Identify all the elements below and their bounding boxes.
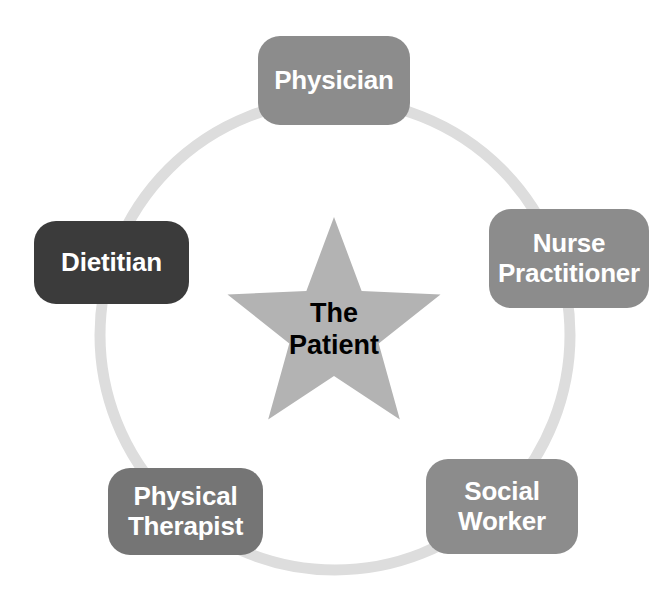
role-label-social-worker: Social Worker [452,477,552,535]
patient-label: The Patient [252,298,416,362]
role-label-physician: Physician [268,66,400,95]
role-node-nurse-practitioner[interactable]: Nurse Practitioner [489,209,649,308]
role-label-dietitian: Dietitian [55,248,168,277]
role-node-physical-therapist[interactable]: Physical Therapist [108,468,263,555]
role-node-physician[interactable]: Physician [258,36,410,125]
diagram-canvas: The Patient Physician Nurse Practitioner… [0,0,660,597]
role-label-physical-therapist: Physical Therapist [122,482,249,540]
role-label-nurse-practitioner: Nurse Practitioner [492,229,646,287]
role-node-dietitian[interactable]: Dietitian [34,221,189,304]
role-node-social-worker[interactable]: Social Worker [426,459,578,554]
